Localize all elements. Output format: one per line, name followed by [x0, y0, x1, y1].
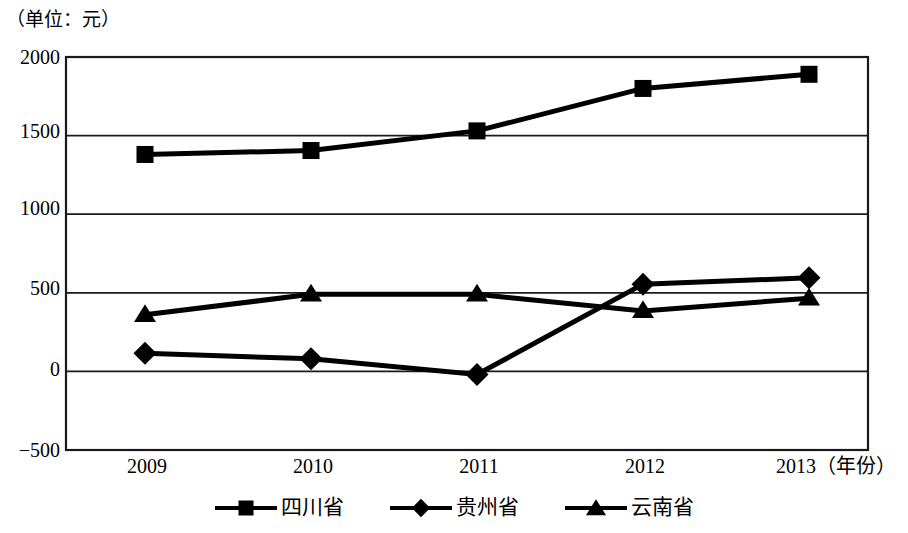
diamond-marker-icon: [390, 498, 452, 518]
x-tick-2013: 2013（年份）: [776, 456, 896, 476]
x-tick-2011: 2011: [459, 456, 498, 476]
x-axis-labels: 2009 2010 2011 2012 2013（年份）: [0, 0, 908, 533]
chart-legend: 四川省 贵州省 云南省: [0, 497, 908, 518]
legend-item-yunnan: 云南省: [565, 497, 694, 518]
legend-label-yunnan: 云南省: [631, 497, 694, 518]
x-tick-2010: 2010: [293, 456, 333, 476]
triangle-marker-icon: [565, 498, 627, 518]
legend-label-sichuan: 四川省: [281, 497, 344, 518]
legend-item-sichuan: 四川省: [215, 497, 344, 518]
square-marker-icon: [215, 498, 277, 518]
legend-label-guizhou: 贵州省: [456, 497, 519, 518]
line-chart: （单位：元） 2000 1500 1000 500 0 −500 2009 20…: [0, 0, 908, 533]
x-tick-2012: 2012: [625, 456, 665, 476]
x-tick-2009: 2009: [127, 456, 167, 476]
legend-item-guizhou: 贵州省: [390, 497, 519, 518]
